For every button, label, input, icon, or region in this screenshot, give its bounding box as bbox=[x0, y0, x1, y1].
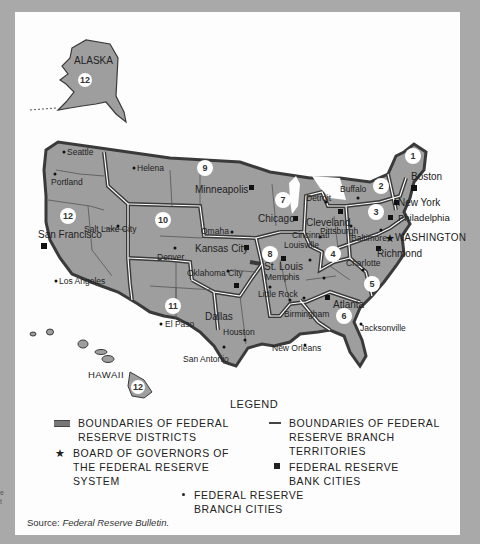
legend-item-district-boundaries: BOUNDARIES OF FEDERAL RESERVE DISTRICTS bbox=[78, 416, 229, 444]
legend-item-board-of-governors: ★ BOARD OF GOVERNORS OF THE FEDERAL RESE… bbox=[73, 446, 229, 488]
district-12: 12 bbox=[63, 211, 73, 221]
federal-reserve-map: ALASKA 12 bbox=[0, 0, 480, 544]
district-12-alaska: 12 bbox=[80, 75, 90, 85]
legend-item-bank-cities: FEDERAL RESERVE BANK CITIES bbox=[289, 460, 399, 488]
star-icon: ★ bbox=[55, 446, 66, 460]
district-11: 11 bbox=[168, 301, 178, 311]
svg-text:Buffalo: Buffalo bbox=[340, 184, 367, 194]
district-5: 5 bbox=[369, 279, 374, 289]
district-7: 7 bbox=[280, 195, 285, 205]
svg-text:Detroit: Detroit bbox=[306, 193, 332, 203]
district-10: 10 bbox=[158, 215, 168, 225]
svg-text:Baltimore: Baltimore bbox=[351, 233, 387, 243]
svg-text:Charlotte: Charlotte bbox=[346, 258, 381, 268]
dot-icon bbox=[182, 493, 185, 496]
svg-text:Birmingham: Birmingham bbox=[284, 309, 329, 319]
svg-text:Seattle: Seattle bbox=[67, 147, 94, 157]
source-note: Source: Federal Reserve Bulletin. bbox=[27, 517, 169, 528]
svg-text:New York: New York bbox=[398, 197, 441, 208]
svg-text:Portland: Portland bbox=[51, 177, 83, 187]
district-12-hawaii: 12 bbox=[133, 382, 143, 392]
svg-text:Denver: Denver bbox=[157, 252, 185, 262]
svg-text:Kansas City: Kansas City bbox=[195, 243, 248, 254]
svg-text:Oklahoma City: Oklahoma City bbox=[187, 268, 243, 278]
district-8: 8 bbox=[267, 249, 272, 259]
district-1: 1 bbox=[410, 151, 415, 161]
svg-text:Salt Lake City: Salt Lake City bbox=[84, 224, 137, 234]
square-icon bbox=[274, 463, 280, 469]
district-3: 3 bbox=[373, 207, 378, 217]
svg-text:Atlanta: Atlanta bbox=[333, 299, 365, 310]
legend-item-branch-boundaries: BOUNDARIES OF FEDERAL RESERVE BRANCH TER… bbox=[289, 416, 440, 458]
washington-label: WASHINGTON bbox=[395, 232, 466, 243]
svg-text:Omaha: Omaha bbox=[201, 226, 229, 236]
double-line-icon bbox=[54, 420, 70, 427]
svg-text:St. Louis: St. Louis bbox=[264, 261, 303, 272]
svg-text:Richmond: Richmond bbox=[377, 248, 422, 259]
hawaii-label: HAWAII bbox=[88, 369, 124, 380]
svg-text:Philadelphia: Philadelphia bbox=[398, 212, 450, 223]
svg-text:Houston: Houston bbox=[223, 327, 255, 337]
svg-text:Helena: Helena bbox=[137, 163, 164, 173]
svg-text:Little Rock: Little Rock bbox=[258, 289, 298, 299]
svg-text:Jacksonville: Jacksonville bbox=[360, 323, 406, 333]
thin-line-icon bbox=[269, 422, 281, 424]
svg-text:Memphis: Memphis bbox=[265, 272, 299, 282]
legend-title: LEGEND bbox=[230, 398, 278, 410]
svg-text:Minneapolis: Minneapolis bbox=[195, 184, 248, 195]
svg-text:Chicago: Chicago bbox=[258, 213, 295, 224]
legend-item-branch-cities: FEDERAL RESERVE BRANCH CITIES bbox=[194, 488, 304, 516]
alaska-label: ALASKA bbox=[74, 55, 113, 66]
district-9: 9 bbox=[202, 163, 207, 173]
district-2: 2 bbox=[378, 181, 383, 191]
svg-text:Louisville: Louisville bbox=[284, 240, 319, 250]
alaska-region: ALASKA 12 bbox=[30, 40, 126, 122]
svg-text:San Antonio: San Antonio bbox=[183, 354, 229, 364]
svg-text:Los Angeles: Los Angeles bbox=[59, 276, 105, 286]
district-6: 6 bbox=[341, 311, 346, 321]
district-4: 4 bbox=[330, 249, 335, 259]
svg-text:Dallas: Dallas bbox=[205, 311, 233, 322]
svg-text:New Orleans: New Orleans bbox=[272, 343, 321, 353]
svg-text:El Paso: El Paso bbox=[165, 319, 195, 329]
svg-text:Boston: Boston bbox=[411, 171, 442, 182]
